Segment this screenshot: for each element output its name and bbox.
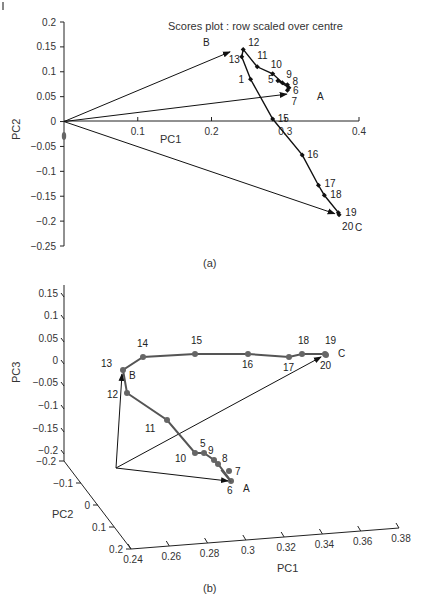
point-label: 15 (278, 113, 290, 124)
x-tick-label: 0.2 (205, 126, 219, 137)
z-tick-label: 0.05 (39, 333, 59, 344)
point-label: 17 (324, 178, 336, 189)
x-tick-label: 0.24 (123, 554, 143, 565)
z-tick-label: −0.15 (33, 423, 59, 434)
point-label: 16 (242, 359, 254, 370)
y-axis-label-b: PC2 (52, 508, 73, 520)
vector-label-b-B: B (129, 370, 136, 381)
data-point (192, 351, 198, 357)
y-tick-label: −0.2 (36, 216, 56, 227)
x-tick-label: 0.26 (162, 551, 182, 562)
vector-label-b-C: C (338, 348, 345, 359)
z-tick-label: −0.05 (33, 377, 59, 388)
z-tick-label: 0 (52, 355, 58, 366)
chart-a-title: Scores plot : row scaled over centre (168, 20, 343, 32)
point-label: 15 (191, 335, 203, 346)
point-label: 19 (325, 335, 337, 346)
y-tick-label: −0.2 (36, 456, 56, 467)
x-tick-label: 0.38 (391, 533, 411, 544)
y-tick-label: −0.05 (31, 141, 57, 152)
data-point (201, 450, 207, 456)
point-label: 19 (345, 207, 357, 218)
vector-b-C (116, 357, 321, 468)
x-tick-label: 0.36 (353, 536, 373, 547)
point-label: 13 (229, 54, 241, 65)
point-label: 17 (283, 362, 295, 373)
x-tick-label: 0.4 (352, 126, 366, 137)
data-point (120, 367, 126, 373)
z-tick-label: 0.1 (44, 310, 58, 321)
vector-label-b-A: A (243, 483, 250, 494)
series-points-a: 15678910111213151617181920 (229, 37, 357, 231)
x-tick (205, 538, 208, 543)
x-tick (166, 541, 169, 546)
y-tick-label: 0.05 (37, 91, 57, 102)
point-label: 9 (286, 69, 292, 80)
point-label: 8 (292, 76, 298, 87)
y-tick-label: −0.15 (31, 191, 57, 202)
data-point (140, 354, 146, 360)
x-ticks-b: 0.240.260.280.30.320.340.360.38 (123, 523, 411, 565)
point-label: 20 (320, 360, 332, 371)
point-label: 11 (145, 423, 156, 434)
point-label: 7 (291, 96, 297, 107)
x-tick (358, 526, 361, 531)
data-point (239, 54, 244, 59)
point-label: 1 (239, 74, 245, 85)
x-tick (243, 535, 246, 540)
data-point (211, 457, 217, 463)
y-tick-label: 0.2 (109, 544, 123, 555)
vector-C (64, 122, 335, 214)
point-label: 11 (257, 50, 268, 61)
y-tick-label: 0 (84, 500, 90, 511)
data-point (164, 417, 170, 423)
z-ticks-b: 0.150.10.050−0.05−0.1−0.15−0.2 (33, 288, 64, 456)
z-tick-label: −0.1 (38, 400, 58, 411)
data-point (323, 352, 329, 358)
x-tick-label: 0.32 (276, 542, 296, 553)
y-axis-label-a: PC2 (10, 119, 22, 140)
point-label: 14 (137, 338, 149, 349)
data-point (286, 354, 292, 360)
point-label: 8 (222, 453, 228, 464)
x-tick (281, 532, 284, 537)
y-tick-label: 0.15 (37, 41, 57, 52)
y-ticks-a: 0.20.150.10.050−0.05−0.1−0.15−0.2−0.25 (31, 17, 64, 252)
y-tick-label: −0.1 (36, 166, 56, 177)
y-tick-label: −0.1 (53, 478, 73, 489)
vector-b-A (116, 468, 228, 481)
y-tick-label: 0.1 (42, 66, 56, 77)
x-tick-label: 0.3 (241, 545, 255, 556)
point-label: 9 (208, 445, 214, 456)
point-label: 6 (227, 485, 233, 496)
x-axis-label-a: PC1 (160, 133, 181, 145)
figure: 0.20.150.10.050−0.05−0.1−0.15−0.2−0.25 0… (0, 0, 427, 608)
chart-a: 0.20.150.10.050−0.05−0.1−0.15−0.2−0.25 0… (10, 17, 366, 270)
y-ticks-b: −0.2−0.100.10.2 (36, 456, 131, 555)
point-label: 10 (175, 453, 187, 464)
z-tick-label: −0.2 (38, 445, 58, 456)
point-label: 18 (330, 189, 342, 200)
y-tick-label: 0 (50, 116, 56, 127)
trajectory-points-b: 567891011121314151617181920 (101, 335, 337, 496)
vector-label-B: B (203, 37, 210, 48)
x-tick-label: 0.1 (131, 126, 145, 137)
z-axis-label-b: PC3 (10, 362, 22, 383)
chart-b: 0.150.10.050−0.05−0.1−0.15−0.2 −0.2−0.10… (10, 285, 411, 594)
x-tick (128, 544, 131, 549)
vector-label-C: C (355, 222, 362, 233)
point-label: 10 (271, 59, 283, 70)
data-point (124, 390, 130, 396)
vector-label-A: A (317, 91, 324, 102)
y-tick-label: 0.2 (42, 17, 56, 28)
point-label: 20 (342, 221, 354, 232)
point-label: 13 (101, 358, 113, 369)
z-tick-label: 0.15 (39, 288, 59, 299)
x-axis-label-b: PC1 (277, 562, 298, 574)
data-point (299, 351, 305, 357)
point-label: 12 (107, 389, 119, 400)
y-tick-label: −0.25 (31, 241, 57, 252)
point-label: 16 (307, 149, 319, 160)
point-label: 18 (298, 335, 310, 346)
x-tick-label: 0.34 (315, 539, 335, 550)
